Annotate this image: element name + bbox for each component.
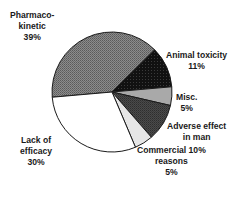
label-pharmacokinetic: Pharmaco- kinetic 39%	[10, 10, 54, 43]
label-misc: Misc. 5%	[176, 92, 198, 114]
label-line: Animal toxicity	[166, 50, 227, 61]
label-value: 30%	[20, 157, 52, 168]
label-lack-of-efficacy: Lack of efficacy 30%	[20, 135, 52, 168]
label-line: reasons	[137, 156, 206, 167]
pie-slices	[52, 32, 172, 152]
label-commercial-reasons: Commercial 10% reasons 5%	[137, 145, 206, 178]
label-value: 11%	[166, 61, 227, 72]
label-value: 5%	[176, 103, 198, 114]
label-line: kinetic	[10, 21, 54, 32]
label-line: Commercial 10%	[137, 145, 206, 156]
label-line: Adverse effect	[167, 121, 226, 132]
label-line: efficacy	[20, 146, 52, 157]
label-line: Pharmaco-	[10, 10, 54, 21]
label-animal-toxicity: Animal toxicity 11%	[166, 50, 227, 72]
label-line: Lack of	[20, 135, 52, 146]
label-line: Misc.	[176, 92, 198, 103]
label-value: 39%	[10, 32, 54, 43]
label-value: 5%	[137, 167, 206, 178]
label-line: in man	[167, 132, 226, 143]
label-adverse-effect: Adverse effect in man	[167, 121, 226, 143]
